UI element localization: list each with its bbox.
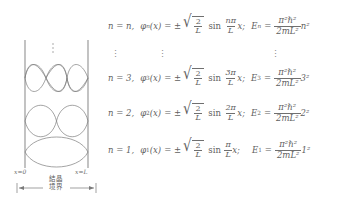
eq-2-energy-num: π²ℏ² [276, 103, 298, 113]
eq-2-sin-var: x; [237, 108, 245, 118]
radical-sign-icon: √ [183, 68, 192, 87]
eq-1-phi-arg: (x) [150, 145, 161, 155]
diagram-ellipsis-dots [52, 43, 53, 52]
eq-2-equals: = ± [164, 108, 181, 118]
eq-3-energy-den: 2mL² [274, 78, 301, 89]
eq-n-root-num: 2 [194, 18, 202, 26]
eq-3-radical: √ 2 L [182, 68, 204, 87]
wave-mode-n2 [25, 105, 88, 137]
eq-1-root-num: 2 [194, 142, 202, 150]
ellipsis-column-3: ⋮ [268, 50, 282, 59]
eq-3-sin-frac: 3π L [224, 69, 237, 87]
eq-n-energy-frac: π²ℏ² 2mL² [274, 16, 301, 37]
eq-2-energy-den: 2mL² [274, 113, 301, 124]
eq-1-energy-den: 2mL² [275, 150, 302, 161]
eq-3-sin-den: L [226, 78, 234, 87]
eq-n-root-den: L [194, 26, 202, 35]
eq-1-energy-equals: = [265, 145, 272, 155]
eq-2-sin-num: 2π [224, 104, 237, 112]
eq-n-radical: √ 2 L [182, 16, 204, 35]
equation-row-2: n = 2, φ2(x) = ± √ 2 L sin 2π L [108, 98, 353, 128]
eq-3-sin-num: 3π [224, 69, 237, 77]
ellipsis-column-2: ⋮ [155, 50, 169, 59]
eq-2-energy-frac: π²ℏ² 2mL² [274, 103, 301, 124]
eq-n-energy-factor: n² [301, 21, 310, 31]
equation-row-3: n = 3, φ3(x) = ± √ 2 L sin 3π L [108, 63, 353, 93]
eq-2-index: n = 2, [108, 108, 134, 118]
wave-mode-n3 [25, 65, 88, 92]
eq-1-sin-num: π [224, 141, 232, 149]
eq-2-energy-equals: = [264, 108, 271, 118]
eq-1-sin: sin [208, 145, 221, 155]
eq-2-phi-arg: (x) [150, 108, 161, 118]
eq-3-phi-arg: (x) [150, 73, 161, 83]
eq-n-sin-var: x; [238, 21, 246, 31]
radical-sign-icon: √ [183, 16, 192, 35]
standing-wave-diagram: x=0 x=L 結晶 境界 [0, 0, 110, 208]
eq-1-sin-var: x; [232, 145, 240, 155]
eq-3-energy-factor: 3² [301, 73, 310, 83]
eq-1-energy-num: π²ℏ² [277, 140, 299, 150]
eq-1-index: n = 1, [108, 145, 134, 155]
eq-1-energy-factor: 1² [301, 145, 310, 155]
figure-canvas: x=0 x=L 結晶 境界 n = n, φn(x) = ± √ 2 L [0, 0, 353, 208]
radical-sign-icon: √ [183, 103, 192, 122]
eq-2-sin-den: L [226, 113, 234, 122]
eq-n-sin-frac: nπ L [224, 17, 238, 35]
eq-1-sin-frac: π L [224, 141, 232, 159]
eq-1-root-den: L [194, 150, 202, 159]
eq-2-energy-factor: 2² [301, 108, 310, 118]
eq-3-energy-num: π²ℏ² [276, 68, 298, 78]
eq-3-index: n = 3, [108, 73, 134, 83]
eq-n-phi-arg: (x) [150, 21, 161, 31]
eq-3-sin-var: x; [237, 73, 245, 83]
eq-n-energy-den: 2mL² [274, 26, 301, 37]
eq-n-index: n = n, [108, 21, 134, 31]
equation-row-n: n = n, φn(x) = ± √ 2 L sin nπ L [108, 11, 353, 41]
eq-1-sin-den: L [224, 150, 232, 159]
eq-n-energy-sub: n [257, 23, 261, 29]
eq-3-equals: = ± [164, 73, 181, 83]
arrow-head-right [89, 186, 94, 190]
arrow-head-left [19, 186, 24, 190]
eq-n-energy-equals: = [264, 21, 271, 31]
eq-1-radical: √ 2 L [182, 140, 204, 159]
eq-1-energy-sub: 1 [258, 147, 262, 153]
wave-mode-n1 [25, 137, 88, 167]
ellipsis-column-1: ⋮ [108, 50, 122, 59]
region-label-boundary: 境界 [36, 184, 76, 192]
eq-3-root-num: 2 [194, 70, 202, 78]
eq-2-radical: √ 2 L [182, 103, 204, 122]
eq-2-root-num: 2 [194, 105, 202, 113]
eq-2-root-den: L [194, 113, 202, 122]
eq-n-sin-den: L [227, 26, 235, 35]
right-boundary-label: x=L [75, 168, 87, 175]
eq-1-equals: = ± [164, 145, 181, 155]
eq-2-sin: sin [208, 108, 221, 118]
radical-sign-icon: √ [183, 140, 192, 159]
eq-3-root-den: L [194, 78, 202, 87]
eq-2-sin-frac: 2π L [224, 104, 237, 122]
eq-3-energy-sub: 3 [257, 75, 261, 81]
left-boundary-label: x=0 [14, 168, 26, 175]
eq-1-energy-frac: π²ℏ² 2mL² [275, 140, 302, 161]
equation-list: n = n, φn(x) = ± √ 2 L sin nπ L [108, 0, 353, 208]
eq-3-energy-frac: π²ℏ² 2mL² [274, 68, 301, 89]
eq-3-energy-equals: = [264, 73, 271, 83]
equation-row-1: n = 1, φ1(x) = ± √ 2 L sin π L x [108, 135, 353, 165]
eq-3-sin: sin [208, 73, 221, 83]
eq-n-equals: = ± [164, 21, 181, 31]
eq-n-energy-num: π²ℏ² [277, 16, 299, 26]
eq-2-energy-sub: 2 [257, 110, 261, 116]
eq-n-sin-num: nπ [224, 17, 238, 25]
eq-n-sin: sin [208, 21, 221, 31]
